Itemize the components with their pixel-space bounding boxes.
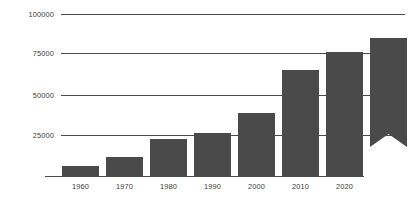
y-tick-label-100000: 100000 [28, 10, 54, 19]
y-tick-label-75000: 75000 [33, 49, 54, 58]
x-axis-labels: 1960 1970 1980 1990 2000 2010 2020 [72, 182, 353, 191]
bar-chart: 100000 75000 50000 25000 1960 1970 1980 … [0, 0, 418, 204]
y-tick-label-25000: 25000 [33, 131, 54, 140]
bar-1970 [106, 157, 143, 176]
x-tick-label-1970: 1970 [116, 182, 133, 191]
x-tick-label-2000: 2000 [248, 182, 265, 191]
bar-2010 [282, 70, 319, 176]
bar-1980 [150, 139, 187, 176]
x-tick-label-2020: 2020 [336, 182, 353, 191]
bar-2000 [238, 113, 275, 176]
chart-canvas: 100000 75000 50000 25000 1960 1970 1980 … [0, 0, 418, 204]
bar-2020 [326, 52, 363, 176]
bar-1960 [62, 166, 99, 176]
bar-1990 [194, 133, 231, 176]
x-tick-label-2010: 2010 [292, 182, 309, 191]
y-axis-labels: 100000 75000 50000 25000 [28, 10, 54, 140]
x-tick-label-1960: 1960 [72, 182, 89, 191]
x-tick-label-1980: 1980 [160, 182, 177, 191]
y-tick-label-50000: 50000 [33, 91, 54, 100]
bar-ribbon-final [370, 38, 407, 147]
bars [62, 38, 407, 176]
x-tick-label-1990: 1990 [204, 182, 221, 191]
